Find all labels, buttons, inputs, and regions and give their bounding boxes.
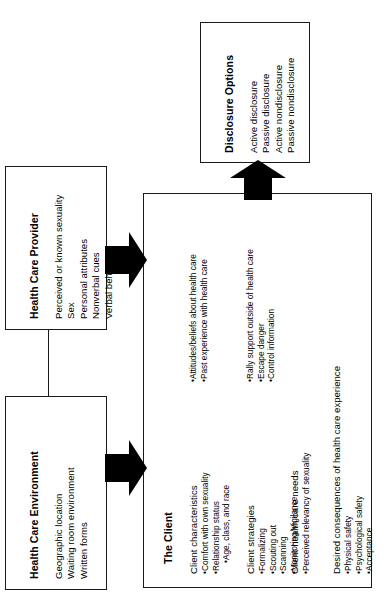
list-item: •Psychological safety xyxy=(354,366,365,574)
group-bullets: •Perceived relevancy of sexuality xyxy=(301,453,312,574)
group-bullets: •Rally support outside of health care •E… xyxy=(245,249,277,382)
list-item: •Physical safety xyxy=(343,366,354,574)
diagram-canvas: Health Care Environment Geographic locat… xyxy=(0,0,387,593)
list-item: Perceived or known sexuality xyxy=(53,195,65,319)
list-item: Passive nondisclosure xyxy=(285,58,297,153)
node-health-care-provider: Health Care Provider Perceived or known … xyxy=(5,166,107,330)
arrow-environment-to-client xyxy=(105,440,147,496)
list-item: •Acceptance xyxy=(364,366,375,574)
list-item: •Scanning xyxy=(278,497,289,574)
list-item: Geographic location xyxy=(53,467,65,579)
group-client-health-care-needs: Client health care needs •Perceived rele… xyxy=(289,453,312,574)
list-item: •Scouting out xyxy=(268,497,279,574)
list-item: •Age, class, and race xyxy=(221,472,232,574)
list-item: Active disclosure xyxy=(248,58,260,153)
list-item: •Escape danger xyxy=(256,249,267,382)
list-item: •Formalizing xyxy=(257,497,268,574)
list-item: Nonverbal cues xyxy=(90,195,102,319)
list-item: Waiting room environment xyxy=(65,467,77,579)
list-item: Personal attributes xyxy=(78,195,90,319)
group-heading: Client health care needs xyxy=(289,453,301,574)
list-item: •Control information xyxy=(266,249,277,382)
the-client-title: The Client xyxy=(162,512,174,564)
arrow-provider-to-client xyxy=(105,232,147,288)
list-item: •Perceived relevancy of sexuality xyxy=(301,453,312,574)
node-disclosure-options: Disclosure Options Active disclosure Pas… xyxy=(200,22,310,163)
list-item: Sex xyxy=(65,195,77,319)
list-item: •Comfort with own sexuality xyxy=(200,472,211,574)
disclosure-options-items: Active disclosure Passive disclosure Act… xyxy=(248,58,298,153)
group-client-characteristics: Client characteristics •Comfort with own… xyxy=(188,472,232,574)
group-desired-consequences: Desired consequences of health care expe… xyxy=(331,366,375,574)
disclosure-options-title: Disclosure Options xyxy=(223,55,235,153)
list-item: Written forms xyxy=(78,467,90,579)
list-item: •Past experience with health care xyxy=(199,254,210,382)
group-heading: Client strategies xyxy=(245,497,257,574)
list-item: Passive disclosure xyxy=(260,58,272,153)
group-heading: Client characteristics xyxy=(188,472,200,574)
health-care-environment-items: Geographic location Waiting room environ… xyxy=(53,467,90,579)
connector-environment-provider-link xyxy=(48,330,49,396)
list-item: •Attitudes/beliefs about health care xyxy=(188,254,199,382)
group-heading: Desired consequences of health care expe… xyxy=(331,366,343,574)
group-client-actions: •Rally support outside of health care •E… xyxy=(245,249,277,382)
group-client-beliefs: •Attitudes/beliefs about health care •Pa… xyxy=(188,254,209,382)
group-bullets: •Physical safety •Psychological safety •… xyxy=(343,366,375,574)
group-bullets: •Attitudes/beliefs about health care •Pa… xyxy=(188,254,209,382)
list-item: •Relationship status xyxy=(211,472,222,574)
health-care-environment-title: Health Care Environment xyxy=(28,451,40,579)
group-bullets: •Comfort with own sexuality •Relationshi… xyxy=(200,472,232,574)
health-care-provider-title: Health Care Provider xyxy=(28,213,40,319)
node-health-care-environment: Health Care Environment Geographic locat… xyxy=(5,396,107,590)
list-item: Active nondisclosure xyxy=(273,58,285,153)
arrow-client-to-disclosure xyxy=(230,160,286,200)
list-item: •Rally support outside of health care xyxy=(245,249,256,382)
node-the-client: The Client Client characteristics •Comfo… xyxy=(143,193,372,588)
